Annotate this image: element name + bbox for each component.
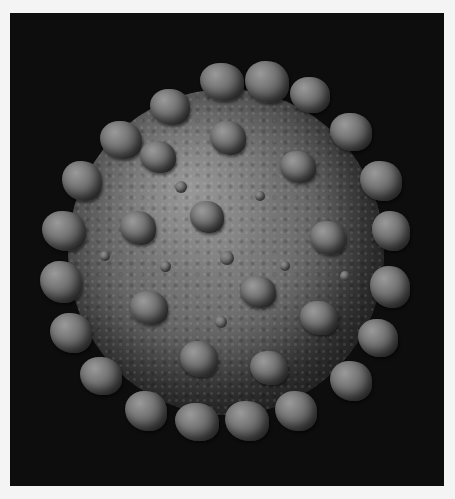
image-frame (10, 13, 444, 486)
spike-protein (280, 151, 316, 183)
spike-protein (250, 351, 288, 385)
spike-protein (62, 161, 102, 201)
surface-knob (175, 181, 187, 193)
spike-protein (275, 391, 317, 431)
spike-protein (360, 161, 402, 201)
spike-protein (240, 276, 276, 308)
surface-knob (220, 251, 234, 265)
spike-protein (100, 121, 142, 159)
spike-protein (120, 211, 156, 245)
spike-protein (42, 211, 86, 251)
spike-protein (358, 319, 398, 357)
spike-protein (330, 113, 372, 151)
spike-protein (130, 291, 168, 325)
spike-protein (290, 77, 330, 113)
spike-protein (80, 357, 122, 395)
spike-protein (200, 63, 244, 101)
spike-protein (300, 301, 338, 335)
spike-protein (310, 221, 346, 255)
surface-knob (280, 261, 290, 271)
surface-knob (160, 261, 171, 272)
spike-protein (372, 211, 410, 251)
spike-protein (180, 341, 218, 377)
spike-protein (225, 401, 269, 441)
surface-knob (340, 271, 350, 281)
spike-protein (140, 141, 176, 173)
spike-protein (210, 121, 246, 155)
spike-protein (150, 89, 190, 125)
spike-protein (50, 313, 92, 353)
spike-protein (40, 261, 82, 303)
spike-protein (125, 391, 167, 431)
spike-protein (370, 266, 410, 308)
spike-protein (175, 403, 219, 441)
virus-particle (40, 61, 410, 441)
spike-protein (190, 201, 224, 233)
surface-knob (215, 316, 227, 328)
spike-protein (330, 361, 372, 401)
surface-knob (100, 251, 110, 261)
surface-knob (255, 191, 265, 201)
spike-protein (245, 61, 289, 103)
